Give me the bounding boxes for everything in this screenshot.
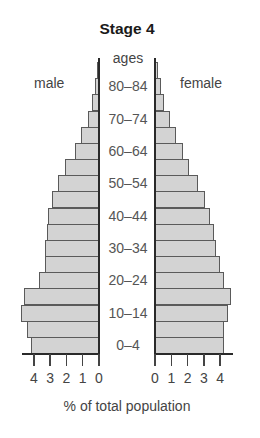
male-bar xyxy=(47,224,100,241)
female-tick xyxy=(203,354,205,366)
female-bar xyxy=(155,143,183,160)
male-tick xyxy=(49,354,51,366)
male-tick-label: 1 xyxy=(75,370,91,386)
female-axis-line xyxy=(154,58,156,354)
male-tick xyxy=(66,354,68,366)
female-bar xyxy=(155,94,164,111)
male-bar xyxy=(65,159,100,176)
female-tick xyxy=(187,354,189,366)
age-label: 20–24 xyxy=(104,272,152,288)
female-bar xyxy=(155,111,170,128)
male-bar xyxy=(24,288,100,305)
male-bar xyxy=(21,305,100,322)
male-tick-label: 4 xyxy=(26,370,42,386)
female-bar xyxy=(155,191,205,208)
female-bar xyxy=(155,159,189,176)
female-bar xyxy=(155,256,220,273)
age-label: 50–54 xyxy=(104,175,152,191)
female-bar xyxy=(155,305,228,322)
male-tick xyxy=(33,354,35,366)
age-label: 40–44 xyxy=(104,208,152,224)
male-tick xyxy=(82,354,84,366)
chart-title: Stage 4 xyxy=(0,20,260,38)
female-tick xyxy=(154,354,156,366)
male-tick-label: 0 xyxy=(91,370,107,386)
ages-axis-header: ages xyxy=(104,50,152,66)
male-bar xyxy=(27,321,100,338)
female-bar xyxy=(155,175,198,192)
age-label: 10–14 xyxy=(104,305,152,321)
female-tick-label: 4 xyxy=(212,370,228,386)
age-label: 70–74 xyxy=(104,111,152,127)
female-tick-label: 2 xyxy=(180,370,196,386)
chart-title-text: Stage 4 xyxy=(99,20,154,37)
male-bar xyxy=(48,208,100,225)
female-x-axis xyxy=(154,353,233,355)
female-tick-label: 1 xyxy=(163,370,179,386)
male-axis-line xyxy=(98,58,100,354)
female-bar xyxy=(155,337,224,354)
female-tick xyxy=(171,354,173,366)
female-bar xyxy=(155,224,214,241)
x-axis-label: % of total population xyxy=(0,398,254,414)
age-label: 60–64 xyxy=(104,143,152,159)
female-tick-label: 0 xyxy=(147,370,163,386)
age-label: 0–4 xyxy=(104,337,152,353)
male-bar xyxy=(45,240,100,257)
male-bar xyxy=(39,272,100,289)
female-bar xyxy=(155,208,210,225)
male-bar xyxy=(75,143,100,160)
male-tick xyxy=(98,354,100,366)
female-bar xyxy=(155,272,224,289)
male-bar xyxy=(52,191,100,208)
female-label: female xyxy=(180,75,222,91)
female-bar xyxy=(155,127,176,144)
female-bar xyxy=(155,288,231,305)
male-bar xyxy=(31,337,100,354)
female-bar xyxy=(155,240,216,257)
male-bar xyxy=(45,256,100,273)
female-tick xyxy=(219,354,221,366)
female-tick-label: 3 xyxy=(196,370,212,386)
age-label: 80–84 xyxy=(104,78,152,94)
age-label: 30–34 xyxy=(104,240,152,256)
female-bar xyxy=(155,321,224,338)
male-tick-label: 3 xyxy=(42,370,58,386)
male-tick-label: 2 xyxy=(58,370,74,386)
male-label: male xyxy=(34,75,64,91)
male-bar xyxy=(58,175,100,192)
